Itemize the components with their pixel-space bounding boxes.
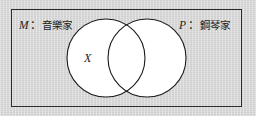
venn-circles — [0, 0, 256, 116]
set-label-p: P：鋼琴家 — [179, 20, 230, 32]
set-label-m: M：音樂家 — [19, 20, 72, 32]
set-symbol-p: P — [179, 19, 187, 31]
set-name-p: 鋼琴家 — [200, 19, 230, 31]
set-symbol-m: M — [19, 19, 29, 31]
venn-diagram-figure: M：音樂家 P：鋼琴家 X — [0, 0, 256, 116]
set-label-m-colon: ： — [29, 19, 42, 31]
set-name-m: 音樂家 — [42, 19, 72, 31]
set-label-p-colon: ： — [187, 19, 200, 31]
region-marker-x: X — [84, 52, 91, 64]
